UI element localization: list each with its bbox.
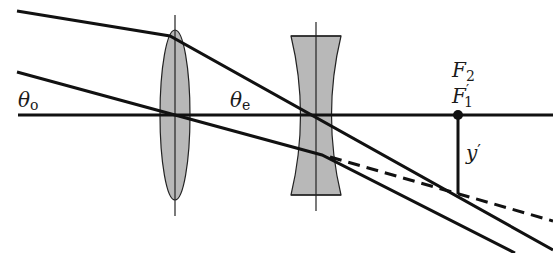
upper-ray [17,11,553,250]
theta-e-label: θe [230,88,250,113]
telescope-diagram: θo θe F2 F′1 y′ [0,0,553,253]
theta-o-label: θo [18,88,38,113]
f1-prime-label: F′1 [451,82,473,110]
extended-ray [330,157,553,221]
focal-point [453,110,463,120]
f2-label: F2 [451,58,475,84]
y-prime-label: y′ [465,141,481,165]
lower-ray [17,72,515,253]
